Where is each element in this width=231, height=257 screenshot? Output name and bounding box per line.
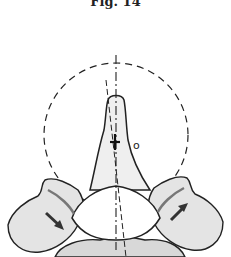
right-lateral-mass (148, 177, 223, 250)
center-label: o (133, 139, 140, 152)
vertebra-diagram: o (0, 0, 231, 257)
